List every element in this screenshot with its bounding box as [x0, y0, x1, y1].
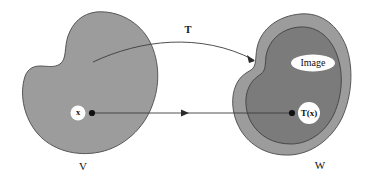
- domain-set-shape: [23, 12, 158, 154]
- image-label: Image: [301, 57, 327, 68]
- domain-point-dot: [89, 110, 95, 116]
- codomain-set-label: W: [315, 159, 326, 171]
- set-map-label: T: [184, 24, 191, 35]
- domain-set-label: V: [79, 160, 87, 172]
- set-mapping-figure: T x Image T(x) V W: [0, 0, 366, 181]
- point-map-arrowhead: [181, 110, 189, 117]
- image-point-dot: [289, 110, 295, 116]
- image-point-label: T(x): [301, 108, 318, 118]
- diagram-canvas: T x Image T(x) V W: [0, 0, 366, 181]
- set-map-arrowhead: [247, 55, 255, 63]
